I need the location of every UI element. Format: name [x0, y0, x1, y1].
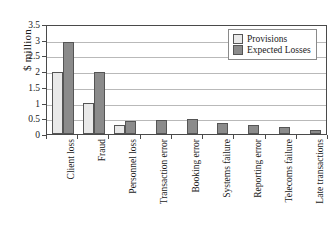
x-axis-label: Client loss: [66, 139, 76, 225]
bar: [83, 103, 94, 134]
y-tickmark-2: [42, 72, 46, 73]
legend-item-expected-losses: Expected Losses: [233, 45, 311, 55]
legend-swatch-provisions: [233, 34, 243, 44]
x-axis-label: Fraud: [97, 139, 107, 225]
bar-group: [140, 27, 171, 134]
bar: [248, 125, 259, 134]
y-tick-label-2.5: 2.5: [0, 51, 40, 61]
y-tick-label-3: 3: [0, 36, 40, 46]
y-tickmark-2.5: [42, 56, 46, 57]
bar-group: [78, 27, 109, 134]
y-tickmark-3.5: [42, 25, 46, 26]
y-tick-label-2: 2: [0, 67, 40, 77]
x-tickmark: [327, 135, 328, 139]
y-tick-label-3.5: 3.5: [0, 20, 40, 30]
legend-swatch-expected-losses: [233, 45, 243, 55]
bar: [114, 125, 125, 134]
legend-label-provisions: Provisions: [247, 34, 287, 44]
bar: [125, 121, 136, 134]
bar: [187, 119, 198, 133]
x-axis-label: Systems failure: [222, 139, 232, 225]
chart-legend: Provisions Expected Losses: [228, 29, 317, 60]
bar: [52, 72, 63, 133]
y-tick-label-0: 0: [0, 130, 40, 140]
x-axis-label: Transaction error: [159, 139, 169, 225]
bar-chart: $ million 0 0.5 1 1.5 2 2.5 3 3.5 Client…: [0, 0, 333, 226]
x-axis-label: Reporting error: [253, 139, 263, 225]
y-tick-label-1.5: 1.5: [0, 83, 40, 93]
y-tickmark-1.5: [42, 88, 46, 89]
legend-item-provisions: Provisions: [233, 34, 311, 44]
x-axis-labels: Client lossFraudPersonnel lossTransactio…: [46, 139, 327, 225]
y-tick-label-0.5: 0.5: [0, 114, 40, 124]
bar-group: [109, 27, 140, 134]
bar: [310, 130, 321, 133]
y-tickmark-3: [42, 41, 46, 42]
y-tickmark-0.5: [42, 119, 46, 120]
x-axis-label: Late transactions: [315, 139, 325, 225]
y-tick-label-1: 1: [0, 99, 40, 109]
bar: [94, 72, 105, 133]
x-axis-label: Booking error: [191, 139, 201, 225]
bar-group: [48, 27, 79, 134]
bar-group: [171, 27, 202, 134]
bar: [279, 127, 290, 133]
bar: [217, 123, 228, 134]
legend-label-expected-losses: Expected Losses: [247, 45, 311, 55]
x-axis-label: Personnel loss: [128, 139, 138, 225]
x-axis-label: Telecoms failure: [284, 139, 294, 225]
bar: [156, 120, 167, 134]
y-tickmark-1: [42, 104, 46, 105]
bar: [63, 42, 74, 134]
